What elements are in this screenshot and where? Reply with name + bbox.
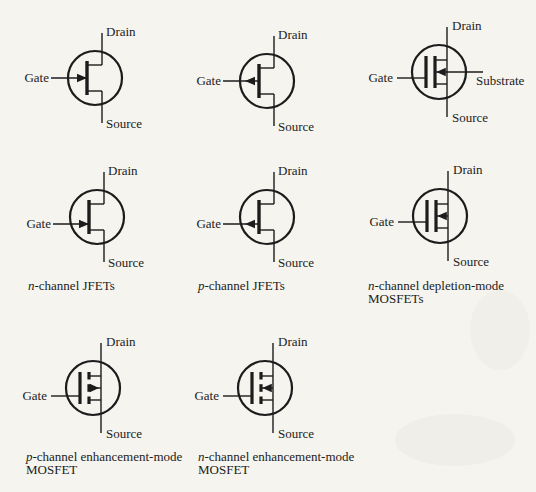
- body-arrow-in-icon: [437, 212, 447, 221]
- terminal-label-drain: Drain: [106, 334, 136, 349]
- gate-arrow-out-icon: [245, 220, 255, 229]
- terminal-label-gate: Gate: [26, 216, 51, 231]
- symbol-n-enhancement-mosfet: DrainSourceGaten-channel enhancement-mod…: [194, 334, 354, 477]
- terminal-label-gate: Gate: [368, 70, 393, 85]
- caption-n-depletion-mosfet-line-2: MOSFETs: [368, 291, 423, 306]
- fet-symbols-diagram: DrainSourceGateDrainSourceGateDrainSourc…: [0, 0, 536, 492]
- terminal-label-source: Source: [452, 110, 488, 125]
- terminal-label-gate: Gate: [196, 216, 221, 231]
- terminal-label-source: Source: [453, 254, 489, 269]
- terminal-label-gate: Gate: [194, 388, 219, 403]
- symbol-p-jfet-centered-gate: DrainSourceGate: [196, 27, 314, 134]
- caption-text: MOSFET: [198, 462, 249, 477]
- symbol-n-jfet-centered-gate: DrainSourceGate: [24, 24, 142, 131]
- terminal-label-gate: Gate: [369, 214, 394, 229]
- caption-n-enhancement-mosfet-line-2: MOSFET: [198, 462, 249, 477]
- symbol-p-enhancement-mosfet: DrainSourceGatep-channel enhancement-mod…: [22, 334, 182, 477]
- terminal-label-drain: Drain: [108, 163, 138, 178]
- body-arrow-out-icon: [90, 384, 99, 393]
- terminal-label-substrate: Substrate: [476, 73, 525, 88]
- body-circle: [70, 190, 124, 244]
- caption-text: MOSFET: [26, 462, 77, 477]
- terminal-label-source: Source: [108, 255, 144, 270]
- terminal-label-drain: Drain: [452, 18, 482, 33]
- scan-artifact: [395, 414, 515, 466]
- terminal-label-source: Source: [106, 116, 142, 131]
- terminal-label-gate: Gate: [196, 73, 221, 88]
- body-arrow-in-icon: [262, 384, 272, 393]
- terminal-label-gate: Gate: [22, 388, 47, 403]
- caption-text: -channel JFETs: [205, 278, 285, 293]
- scan-artifact: [470, 290, 530, 370]
- caption-p-jfet-offset-gate-line-1: p-channel JFETs: [197, 278, 285, 293]
- terminal-label-drain: Drain: [278, 27, 308, 42]
- terminal-label-source: Source: [106, 426, 142, 441]
- terminal-label-drain: Drain: [106, 24, 136, 39]
- terminal-label-gate: Gate: [24, 70, 49, 85]
- terminal-label-drain: Drain: [278, 334, 308, 349]
- symbol-n-jfet-offset-gate: DrainSourceGaten-channel JFETs: [26, 163, 144, 293]
- caption-p-enhancement-mosfet-line-2: MOSFET: [26, 462, 77, 477]
- symbol-n-depletion-mosfet: DrainSourceGaten-channel depletion-modeM…: [368, 162, 504, 306]
- body-circle: [240, 190, 294, 244]
- body-arrow-in-icon: [436, 68, 446, 77]
- caption-text: -channel JFETs: [35, 278, 115, 293]
- terminal-label-source: Source: [278, 255, 314, 270]
- terminal-label-source: Source: [278, 119, 314, 134]
- terminal-label-drain: Drain: [278, 163, 308, 178]
- terminal-label-drain: Drain: [453, 162, 483, 177]
- caption-text: MOSFETs: [368, 291, 423, 306]
- scanned-figure-page: DrainSourceGateDrainSourceGateDrainSourc…: [0, 0, 536, 492]
- gate-arrow-out-icon: [245, 77, 255, 86]
- symbol-p-jfet-offset-gate: DrainSourceGatep-channel JFETs: [196, 163, 314, 293]
- caption-n-jfet-offset-gate-line-1: n-channel JFETs: [28, 278, 115, 293]
- terminal-label-source: Source: [278, 426, 314, 441]
- symbol-n-depletion-mosfet-with-substrate: DrainSourceGateSubstrate: [368, 18, 524, 125]
